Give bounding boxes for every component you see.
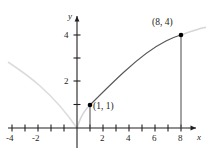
- x-axis-arrow: [191, 126, 197, 131]
- faint-mirror-curve: [8, 62, 77, 128]
- data-point-marker-1: [88, 103, 93, 108]
- data-point-marker-2: [179, 33, 184, 38]
- x-tick-label-neg2: -2: [32, 134, 40, 143]
- faint-curve-upper: [181, 27, 206, 35]
- x-tick-label-2: 2: [100, 134, 105, 143]
- graph-figure: y x -4 -2 2 4 6 8 2 4 (1, 1) (8, 4): [0, 0, 209, 159]
- sqrt-curve: [90, 35, 181, 105]
- y-axis-arrow: [75, 16, 80, 22]
- point-label-1-1: (1, 1): [93, 102, 114, 112]
- x-tick-label-6: 6: [152, 134, 157, 143]
- faint-curve-lower: [77, 105, 90, 128]
- x-tick-label-4: 4: [126, 134, 131, 143]
- y-tick-label-4: 4: [64, 31, 69, 40]
- x-tick-label-8: 8: [178, 134, 183, 143]
- point-label-8-4: (8, 4): [152, 18, 173, 28]
- y-axis-label: y: [68, 12, 72, 21]
- y-tick-label-2: 2: [64, 77, 69, 86]
- x-tick-label-neg4: -4: [6, 134, 14, 143]
- x-axis-label: x: [197, 133, 201, 142]
